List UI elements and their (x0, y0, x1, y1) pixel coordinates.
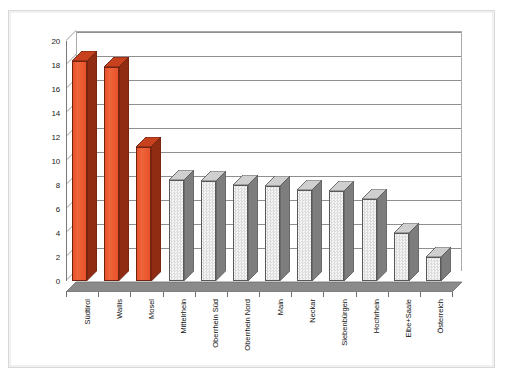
bar (104, 67, 119, 281)
y-tick-label: 10 (52, 157, 61, 166)
plot-area: 02468101214161820 SüdtirolWallisMoselMit… (66, 41, 452, 281)
x-category-label: Main (276, 299, 285, 315)
y-tick-label: 4 (56, 229, 60, 238)
bar-chart: 02468101214161820 SüdtirolWallisMoselMit… (0, 0, 508, 380)
bar-front-face (394, 233, 409, 281)
x-tick (323, 292, 324, 297)
x-tick (356, 292, 357, 297)
bar (265, 186, 280, 281)
x-tick (130, 292, 131, 297)
x-category-label: Siebenbürgen (340, 299, 349, 346)
bar (394, 233, 409, 281)
x-axis-category-labels: SüdtirolWallisMoselMittelrheinOberrhein … (66, 299, 462, 373)
bar-front-face (362, 199, 377, 281)
bar-front-face (297, 190, 312, 281)
bar-front-face (426, 257, 441, 281)
bar-front-face (201, 181, 216, 281)
y-tick-label: 16 (52, 85, 61, 94)
bar (426, 257, 441, 281)
x-tick (98, 292, 99, 297)
x-tick (388, 292, 389, 297)
x-category-label: Mittelrhein (179, 299, 188, 334)
x-axis-ticks (66, 292, 462, 298)
bar (72, 61, 87, 281)
x-category-label: Wallis (115, 299, 124, 319)
bar-front-face (72, 61, 87, 281)
x-category-label: Elbe+Saale (404, 299, 413, 338)
y-tick-label: 8 (56, 181, 60, 190)
x-category-label: Neckar (308, 299, 317, 323)
x-tick (163, 292, 164, 297)
bar-front-face (169, 180, 184, 281)
y-tick-label: 2 (56, 253, 60, 262)
y-tick-label: 12 (52, 133, 61, 142)
plot-floor (66, 281, 462, 292)
y-tick-label: 14 (52, 109, 61, 118)
y-tick-label: 20 (52, 37, 61, 46)
bar-series (66, 41, 452, 281)
y-tick-connector (66, 21, 76, 41)
gridline (77, 32, 461, 33)
bar (329, 191, 344, 281)
bar (169, 180, 184, 281)
bar (233, 185, 248, 281)
x-tick (195, 292, 196, 297)
x-tick (291, 292, 292, 297)
bar-front-face (104, 67, 119, 281)
bar-front-face (233, 185, 248, 281)
y-tick-label: 6 (56, 205, 60, 214)
bar (362, 199, 377, 281)
x-category-label: Südtirol (83, 299, 92, 324)
x-category-label: Oberrhein Süd (211, 299, 220, 348)
bar (136, 147, 151, 281)
bar-front-face (136, 147, 151, 281)
bar-front-face (329, 191, 344, 281)
y-tick-label: 0 (56, 277, 60, 286)
screenshot-root: 02468101214161820 SüdtirolWallisMoselMit… (0, 0, 508, 380)
bar (297, 190, 312, 281)
x-tick (420, 292, 421, 297)
x-tick (66, 292, 67, 297)
x-tick (259, 292, 260, 297)
x-category-label: Oberrhein Nord (243, 299, 252, 351)
x-tick (227, 292, 228, 297)
x-category-label: Österreich (436, 299, 445, 334)
y-tick-label: 18 (52, 61, 61, 70)
bar (201, 181, 216, 281)
x-category-label: Hochrhein (372, 299, 381, 333)
bar-front-face (265, 186, 280, 281)
x-tick (452, 292, 453, 297)
x-category-label: Mosel (147, 299, 156, 319)
